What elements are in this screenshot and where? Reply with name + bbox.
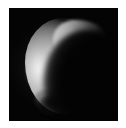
page-root: A partially illuminated spherical body s… xyxy=(0,0,126,128)
crescent-body-graphic xyxy=(9,8,118,121)
crescent-body-image-panel: A partially illuminated spherical body s… xyxy=(9,8,118,121)
bottom-shadow-notch xyxy=(39,96,61,114)
